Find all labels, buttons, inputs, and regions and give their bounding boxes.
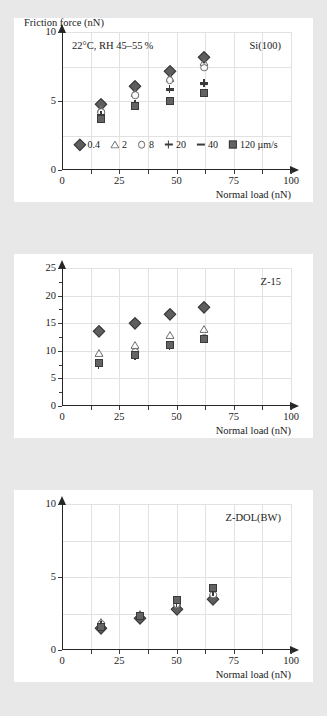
x-tick-label: 0	[59, 412, 64, 423]
x-tick-label: 0	[59, 656, 64, 667]
x-axis-title-1: Normal load (nN)	[216, 189, 291, 200]
legend-item: 120 µm/s	[228, 139, 278, 150]
x-tick-mark	[119, 650, 120, 654]
x-tick-mark	[234, 170, 235, 174]
x-tick-mark	[91, 650, 92, 654]
gridline-horizontal	[62, 323, 291, 324]
y-tick-label: 5	[51, 373, 56, 384]
y-tick-label: 0	[51, 401, 56, 412]
marker-circle-icon	[131, 92, 139, 100]
x-tick-mark	[119, 170, 120, 174]
x-tick-mark	[205, 650, 206, 654]
legend-label: 0.4	[87, 139, 100, 150]
marker-circle-icon	[200, 64, 208, 72]
x-tick-mark	[291, 170, 292, 174]
x-tick-mark	[262, 406, 263, 410]
marker-square-icon	[97, 623, 105, 631]
legend-item: 8	[137, 139, 154, 150]
gridline-horizontal	[62, 268, 291, 269]
y-axis-line-2	[62, 268, 63, 406]
marker-square-icon	[95, 359, 103, 367]
y-tick-mark-minor	[59, 365, 62, 366]
y-tick-label: 0	[51, 165, 56, 176]
marker-square-icon	[131, 351, 139, 359]
chart-panel-zdolbw: Z-DOL(BW) 0510 0255075100 Normal load (n…	[0, 472, 327, 716]
legend-item: 0.4	[75, 139, 100, 150]
y-tick-mark	[58, 650, 62, 651]
plot-area-2: Z-15 0510152025 0255075100 Normal load (…	[62, 268, 291, 406]
y-tick-label: 25	[46, 263, 57, 274]
legend-marker-square-icon	[228, 140, 237, 149]
gridline-horizontal	[62, 32, 291, 33]
y-tick-label: 15	[46, 318, 57, 329]
x-tick-mark	[177, 406, 178, 410]
marker-triangle-icon	[165, 331, 174, 339]
marker-square-icon	[136, 612, 144, 620]
marker-triangle-icon	[110, 140, 119, 148]
legend-marker-triangle-icon	[110, 140, 119, 149]
marker-triangle-icon	[199, 325, 208, 333]
legend-marker-plus-icon	[164, 140, 173, 149]
y-tick-label: 0	[51, 645, 56, 656]
gridline-vertical	[262, 268, 263, 406]
sample-label-1: Si(100)	[250, 40, 282, 51]
gridline-vertical	[234, 268, 235, 406]
legend-label: 40	[208, 139, 218, 150]
y-tick-label: 10	[46, 346, 57, 357]
y-tick-mark	[58, 406, 62, 407]
x-tick-label: 0	[59, 176, 64, 187]
marker-square-icon	[228, 140, 236, 148]
gridline-vertical	[177, 268, 178, 406]
marker-square-icon	[173, 596, 181, 604]
sample-label-2: Z-15	[261, 276, 281, 287]
marker-square-icon	[131, 102, 139, 110]
gridline-horizontal	[62, 296, 291, 297]
marker-diamond-icon	[74, 138, 86, 150]
gridline-vertical	[291, 32, 292, 170]
y-tick-mark	[58, 504, 62, 505]
x-tick-mark	[119, 406, 120, 410]
x-tick-mark	[177, 650, 178, 654]
gridline-vertical	[148, 268, 149, 406]
gridline-horizontal	[62, 577, 291, 578]
legend: 0.4282040120 µm/s	[75, 139, 277, 150]
x-tick-label: 100	[283, 176, 299, 187]
gridline-vertical	[119, 268, 120, 406]
y-tick-mark	[58, 351, 62, 352]
marker-square-icon	[97, 115, 105, 123]
plot-card-3: Z-DOL(BW) 0510 0255075100 Normal load (n…	[14, 490, 313, 682]
y-tick-mark	[58, 101, 62, 102]
marker-circle-icon	[166, 77, 174, 85]
gridline-horizontal	[62, 541, 291, 542]
y-axis-line-3	[62, 504, 63, 650]
gridline-vertical	[91, 268, 92, 406]
x-tick-mark	[148, 170, 149, 174]
marker-square-icon	[166, 97, 174, 105]
y-tick-mark-minor	[59, 282, 62, 283]
y-tick-mark	[58, 323, 62, 324]
x-tick-mark	[291, 406, 292, 410]
x-tick-label: 75	[229, 656, 240, 667]
plot-area-3: Z-DOL(BW) 0510 0255075100 Normal load (n…	[62, 504, 291, 650]
legend-label: 2	[122, 139, 127, 150]
marker-dash-icon	[196, 144, 204, 146]
legend-label: 8	[149, 139, 154, 150]
x-tick-mark	[91, 406, 92, 410]
y-tick-label: 5	[51, 572, 56, 583]
x-tick-mark	[262, 650, 263, 654]
legend-label: 120 µm/s	[240, 139, 278, 150]
y-tick-mark	[58, 296, 62, 297]
y-tick-mark-minor	[59, 309, 62, 310]
condition-label: 22°C, RH 45–55 %	[72, 40, 153, 51]
x-tick-mark	[177, 170, 178, 174]
x-tick-label: 50	[171, 656, 182, 667]
y-tick-label: 10	[46, 499, 57, 510]
y-tick-mark	[58, 268, 62, 269]
sample-label-3: Z-DOL(BW)	[226, 512, 281, 523]
y-tick-mark-minor	[59, 392, 62, 393]
gridline-horizontal	[62, 136, 291, 137]
marker-dash-icon	[200, 83, 208, 85]
y-tick-mark-minor	[59, 337, 62, 338]
legend-marker-dash-icon	[196, 140, 205, 149]
y-tick-mark	[58, 577, 62, 578]
